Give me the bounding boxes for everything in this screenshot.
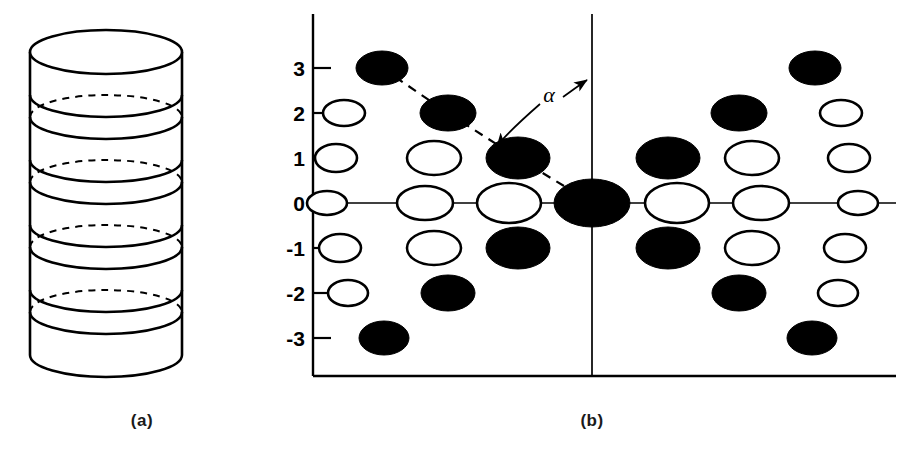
- open-reflection-marker: [725, 231, 779, 265]
- panel-b-plot: 3 2 1 0 -1 -2 -3: [286, 14, 896, 376]
- open-reflection-marker: [328, 280, 368, 306]
- y-tick-label: -3: [286, 327, 305, 350]
- disk-rear-arc: [30, 290, 182, 312]
- caption-panel-b: (b): [532, 411, 652, 431]
- y-tick-label: -2: [286, 282, 305, 305]
- open-reflection-marker: [477, 183, 541, 223]
- open-reflection-marker: [820, 100, 862, 126]
- disk-bottom-arc: [30, 225, 182, 247]
- filled-reflection-marker: [356, 51, 408, 85]
- y-axis-tick-labels: 3 2 1 0 -1 -2 -3: [286, 57, 305, 350]
- open-reflection-marker: [818, 280, 858, 306]
- open-reflection-marker: [407, 141, 461, 175]
- filled-reflection-marker: [486, 227, 550, 269]
- open-reflection-marker: [828, 144, 870, 172]
- disk-front-arc: [30, 117, 182, 139]
- open-reflection-marker: [733, 186, 789, 220]
- open-reflection-marker: [824, 234, 866, 262]
- open-reflection-marker: [323, 100, 365, 126]
- disk-front-arc: [30, 312, 182, 334]
- open-reflection-marker: [838, 191, 878, 215]
- cylinder-top-cap: [30, 30, 182, 74]
- open-reflection-marker: [315, 144, 357, 172]
- disk-bottom-arc: [30, 290, 182, 312]
- y-tick-label: 3: [293, 57, 305, 80]
- open-reflection-marker: [307, 191, 347, 215]
- y-tick-label: 0: [293, 192, 305, 215]
- disk-bottom-arc: [30, 160, 182, 182]
- disk-rear-arc: [30, 160, 182, 182]
- filled-reflection-marker: [787, 321, 837, 355]
- disk-rear-arc: [30, 225, 182, 247]
- angle-annotation: α: [497, 80, 587, 146]
- filled-reflection-marker: [486, 137, 550, 179]
- filled-reflection-marker: [789, 51, 841, 85]
- disk-bottom-arc: [30, 95, 182, 117]
- figure-svg: 3 2 1 0 -1 -2 -3: [0, 0, 898, 462]
- y-tick-label: 1: [293, 147, 305, 170]
- open-reflection-marker: [407, 231, 461, 265]
- disk-rear-arc: [30, 95, 182, 117]
- disk-front-arc: [30, 182, 182, 204]
- open-reflection-marker: [319, 234, 361, 262]
- filled-reflection-marker: [420, 95, 476, 131]
- filled-reflection-marker: [712, 275, 766, 311]
- filled-reflection-marker: [554, 179, 630, 227]
- filled-reflection-marker: [636, 137, 700, 179]
- filled-reflection-marker: [359, 321, 409, 355]
- panel-a-cylinder: [30, 30, 182, 377]
- filled-reflection-marker: [421, 275, 475, 311]
- open-reflection-marker: [397, 186, 453, 220]
- filled-reflection-marker: [636, 227, 700, 269]
- open-reflection-marker: [645, 183, 709, 223]
- figure-container: 3 2 1 0 -1 -2 -3: [0, 0, 898, 462]
- disk-front-arc: [30, 247, 182, 269]
- y-tick-label: 2: [293, 102, 305, 125]
- filled-reflection-marker: [711, 95, 767, 131]
- open-reflection-marker: [725, 141, 779, 175]
- y-tick-label: -1: [286, 237, 305, 260]
- angle-label-alpha: α: [543, 82, 555, 107]
- dashed-layer-line: [382, 68, 592, 203]
- caption-panel-a: (a): [82, 411, 202, 431]
- disk-bottom-arc: [30, 355, 182, 377]
- angle-arrow-to-meridian: [563, 80, 587, 97]
